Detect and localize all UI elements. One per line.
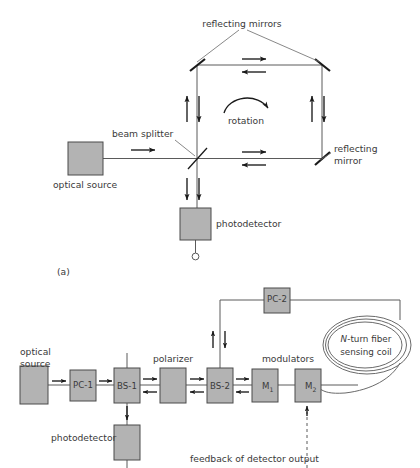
panel-a-optical-source-box <box>68 142 103 175</box>
label-pc1: PC-1 <box>73 380 93 390</box>
label-modulators: modulators <box>262 353 314 364</box>
optical-diagram-svg: reflecting mirrors rotation beam splitte… <box>0 0 420 468</box>
label-reflecting-mirror-1: reflecting <box>334 143 378 154</box>
label-panel-a-photodetector: photodetector <box>216 218 282 229</box>
label-beam-splitter: beam splitter <box>112 128 174 139</box>
label-sensing-coil-line2: sensing coil <box>340 347 392 357</box>
label-panel-b-optical-source-2: source <box>20 358 51 369</box>
rotation-arc-arrow <box>224 98 268 113</box>
panel-a-output-terminal <box>192 253 199 260</box>
panel-a-beam-paths <box>103 65 322 253</box>
panel-b-group: PC-1 BS-1 BS-2 PC-2 M1 M2 optical source… <box>20 288 411 468</box>
leader-mirrors-left <box>197 30 239 62</box>
label-bs1: BS-1 <box>117 381 137 391</box>
label-reflecting-mirrors: reflecting mirrors <box>202 18 282 29</box>
panel-a-photodetector-box <box>180 208 211 240</box>
panel-b-optical-source-box <box>20 366 48 404</box>
leader-beam-splitter <box>175 140 195 156</box>
panel-a-group: reflecting mirrors rotation beam splitte… <box>53 18 378 277</box>
leader-mirrors-right <box>247 30 320 62</box>
label-panel-a-optical-source: optical source <box>53 179 118 190</box>
label-feedback: feedback of detector output <box>190 453 319 464</box>
panel-b-photodetector-box <box>114 425 140 460</box>
label-reflecting-mirror-2: mirror <box>334 155 362 166</box>
label-polarizer: polarizer <box>153 353 193 364</box>
label-pc2: PC-2 <box>267 294 287 304</box>
figure-root: reflecting mirrors rotation beam splitte… <box>0 0 420 468</box>
panel-b-polarizer-box <box>160 368 186 403</box>
label-panel-b-optical-source-1: optical <box>20 346 51 357</box>
label-sensing-coil-line1: N-turn fiber <box>341 334 392 344</box>
panel-a-caption: (a) <box>57 266 70 277</box>
line-pc2-to-coil <box>290 300 400 320</box>
label-rotation: rotation <box>228 115 264 126</box>
label-bs2: BS-2 <box>210 381 230 391</box>
line-bs2-to-pc2 <box>220 300 264 372</box>
label-panel-b-photodetector: photodetector <box>51 432 117 443</box>
